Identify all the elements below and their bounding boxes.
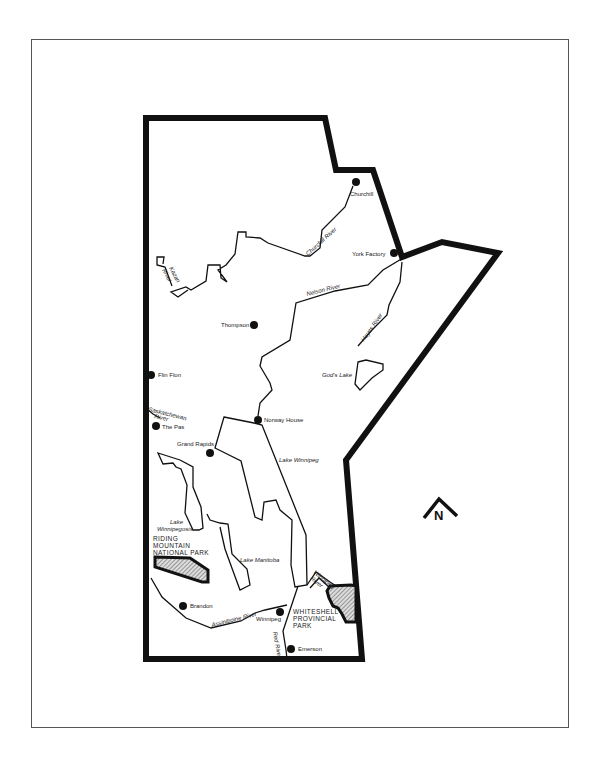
- north-arrow-icon: N: [424, 499, 457, 523]
- city-dot-grand-rapids[interactable]: [206, 449, 214, 457]
- label-riding-mountain-1: RIDING: [153, 535, 178, 542]
- city-dot-the-pas[interactable]: [152, 422, 160, 430]
- city-dot-winnipeg[interactable]: [276, 608, 284, 616]
- label-grand-rapids: Grand Rapids: [177, 441, 214, 447]
- churchill-river: [171, 186, 353, 297]
- label-riding-mountain-2: MOUNTAIN: [153, 542, 190, 549]
- label-winnipeg: Winnipeg: [256, 616, 281, 622]
- label-lake-winnipegosis-1: Lake: [170, 519, 184, 525]
- label-the-pas: The Pas: [162, 424, 184, 430]
- city-dot-norway-house[interactable]: [254, 416, 262, 424]
- riding-mountain-park: [155, 557, 208, 582]
- label-emerson: Emerson: [298, 646, 322, 652]
- city-dot-flin-flon[interactable]: [147, 371, 155, 379]
- gods-lake: [355, 360, 383, 390]
- label-riding-mountain-3: NATIONAL PARK: [153, 549, 209, 556]
- label-whiteshell-1: WHITESHELL: [293, 608, 339, 615]
- label-lake-winnipeg: Lake Winnipeg: [279, 457, 319, 463]
- label-norway-house: Norway House: [264, 417, 304, 423]
- label-red-river: Red River: [272, 631, 283, 659]
- city-dot-emerson[interactable]: [287, 645, 295, 653]
- city-dot-thompson[interactable]: [250, 321, 258, 329]
- label-thompson: Thompson: [221, 322, 249, 328]
- label-gods-lake: God's Lake: [322, 372, 353, 378]
- nelson-river: [258, 258, 403, 416]
- label-york-factory: York Factory: [352, 251, 385, 257]
- city-dot-brandon[interactable]: [179, 602, 187, 610]
- label-brandon: Brandon: [190, 603, 213, 609]
- label-flin-flon: Flin Flon: [158, 372, 181, 378]
- city-dot-churchill[interactable]: [352, 178, 360, 186]
- label-lake-manitoba: Lake Manitoba: [240, 557, 280, 563]
- label-churchill: Churchill: [350, 191, 373, 197]
- label-assiniboine-river: Assiniboine River: [210, 611, 258, 629]
- label-hayes-river: Hayes River: [360, 312, 384, 343]
- label-whiteshell-3: PARK: [293, 622, 312, 629]
- manitoba-map: Churchill York Factory Thompson Flin Flo…: [0, 0, 601, 763]
- label-whiteshell-2: PROVINCIAL: [293, 615, 336, 622]
- city-dot-york-factory[interactable]: [390, 249, 398, 257]
- north-letter: N: [434, 508, 443, 523]
- label-lake-winnipegosis-2: Winnipegosis: [157, 526, 193, 532]
- lake-manitoba: [207, 514, 250, 590]
